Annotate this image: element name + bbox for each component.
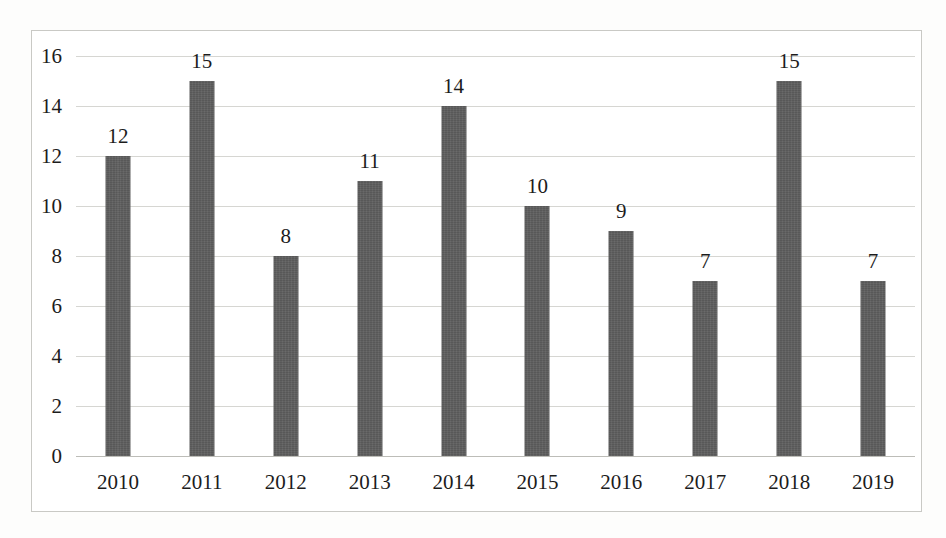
bar-value-label-2017: 7 (700, 251, 711, 272)
bar-2017[interactable] (693, 281, 718, 456)
bar-value-label-2011: 15 (191, 51, 212, 72)
bar-2015[interactable] (525, 206, 550, 456)
bar-value-label-2013: 11 (360, 151, 380, 172)
x-axis-tick-label-2015: 2015 (516, 472, 558, 493)
bar-slot-2016: 92016 (579, 56, 663, 456)
bar-slot-2013: 112013 (328, 56, 412, 456)
bar-2018[interactable] (777, 81, 802, 456)
y-axis-tick-label: 8 (52, 246, 63, 267)
bar-slot-2010: 122010 (76, 56, 160, 456)
bar-value-label-2019: 7 (868, 251, 879, 272)
bar-value-label-2016: 9 (616, 201, 627, 222)
y-axis-tick-label: 12 (41, 146, 62, 167)
x-axis-tick-label-2018: 2018 (768, 472, 810, 493)
bar-slot-2012: 82012 (244, 56, 328, 456)
page-background: 1614121086420 12201015201182012112013142… (0, 0, 946, 538)
bar-slot-2015: 102015 (496, 56, 580, 456)
x-axis-tick-label-2019: 2019 (852, 472, 894, 493)
bar-2016[interactable] (609, 231, 634, 456)
bar-2011[interactable] (189, 81, 214, 456)
gridline: 0 (76, 456, 915, 457)
bar-value-label-2010: 12 (107, 126, 128, 147)
y-axis-tick-label: 14 (41, 96, 62, 117)
bar-slot-2014: 142014 (412, 56, 496, 456)
bar-slot-2018: 152018 (747, 56, 831, 456)
bar-value-label-2014: 14 (443, 76, 464, 97)
bar-value-label-2012: 8 (280, 226, 291, 247)
bar-slot-2017: 72017 (663, 56, 747, 456)
y-axis-tick-label: 6 (52, 296, 63, 317)
y-axis-tick-label: 10 (41, 196, 62, 217)
x-axis-tick-label-2011: 2011 (181, 472, 222, 493)
x-axis-tick-label-2017: 2017 (684, 472, 726, 493)
x-axis-tick-label-2010: 2010 (97, 472, 139, 493)
y-axis-tick-label: 2 (52, 396, 63, 417)
x-axis-tick-label-2012: 2012 (265, 472, 307, 493)
x-axis-tick-label-2014: 2014 (433, 472, 475, 493)
x-axis-tick-label-2016: 2016 (600, 472, 642, 493)
bar-chart-plot-area: 1614121086420 12201015201182012112013142… (76, 56, 915, 456)
bar-2013[interactable] (357, 181, 382, 456)
y-axis-tick-label: 16 (41, 46, 62, 67)
bar-value-label-2018: 15 (779, 51, 800, 72)
bar-2014[interactable] (441, 106, 466, 456)
y-axis-tick-label: 0 (52, 446, 63, 467)
bar-slot-2011: 152011 (160, 56, 244, 456)
bar-value-label-2015: 10 (527, 176, 548, 197)
bar-2012[interactable] (273, 256, 298, 456)
bar-slot-2019: 72019 (831, 56, 915, 456)
bar-2010[interactable] (105, 156, 130, 456)
bar-2019[interactable] (861, 281, 886, 456)
x-axis-tick-label-2013: 2013 (349, 472, 391, 493)
y-axis-tick-label: 4 (52, 346, 63, 367)
